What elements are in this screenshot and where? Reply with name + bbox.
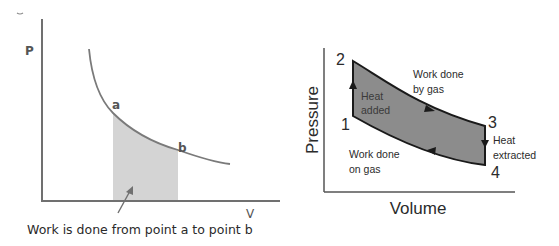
pv-diagrams-canvas: P V a b Work is done from point a to poi… [0, 0, 559, 246]
stray-mark [17, 13, 23, 14]
left-caption: Work is done from point a to point b [27, 222, 253, 237]
left-pv-diagram: P V a b Work is done from point a to poi… [17, 13, 280, 237]
heat-added-line2: added [361, 104, 390, 116]
point-a-label: a [112, 98, 120, 112]
work-shaded-area [113, 113, 178, 200]
heat-extracted-line2: extracted [493, 149, 536, 161]
volume-axis-label: Volume [390, 199, 447, 218]
right-pv-cycle-diagram: 2 1 3 4 Work done by gas Heat added Heat… [303, 48, 536, 218]
work-on-gas-line1: Work done [349, 148, 400, 160]
left-x-axis-label: V [246, 207, 255, 221]
pressure-axis-label: Pressure [303, 86, 322, 154]
left-y-axis-label: P [25, 44, 34, 58]
work-by-gas-line1: Work done [413, 68, 464, 80]
work-on-gas-line2: on gas [349, 163, 381, 175]
point-1-label: 1 [341, 116, 350, 133]
heat-extracted-line1: Heat [493, 134, 515, 146]
point-3-label: 3 [488, 114, 497, 131]
heat-added-line1: Heat [361, 90, 383, 102]
point-2-label: 2 [336, 51, 345, 68]
point-b-label: b [178, 141, 187, 155]
work-by-gas-line2: by gas [413, 83, 444, 95]
point-4-label: 4 [491, 164, 500, 181]
